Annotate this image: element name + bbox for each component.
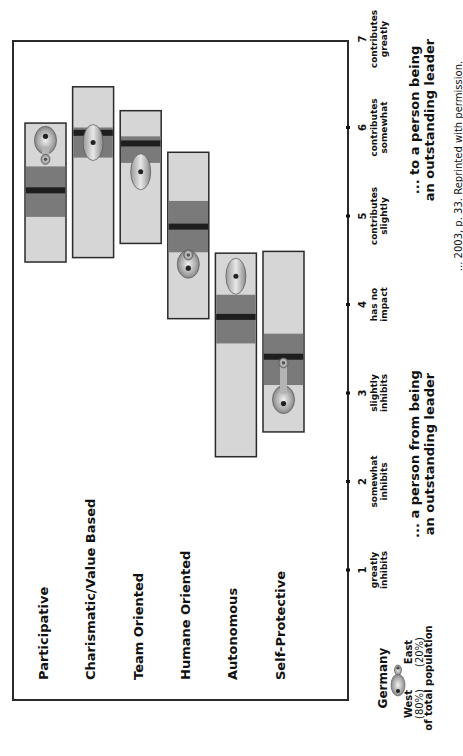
low-caption-line1: ... a person from being <box>407 370 422 538</box>
germany-west-dot <box>281 401 286 406</box>
category-label-participative: Participative <box>36 587 51 680</box>
tick-label-6-line1: contributes <box>369 98 379 156</box>
mean-line-participative <box>26 187 65 193</box>
tick-label-3-line2: inhibits <box>379 374 389 412</box>
low-caption-line2: an outstanding leader <box>422 372 437 535</box>
tick-number-5: 5 <box>357 212 368 219</box>
tick-number-7: 7 <box>357 35 368 42</box>
germany-marker-humane-oriented <box>177 250 199 278</box>
mean-line-humane-oriented <box>169 224 208 230</box>
mean-line-autonomous <box>216 314 255 320</box>
tick-label-7-line2: greatly <box>379 21 389 57</box>
source-note: ... 2003, p. 33. Reprinted with permissi… <box>453 61 463 271</box>
high-caption-line1: ... to a person being <box>407 46 422 194</box>
legend-east-label: East <box>403 640 414 665</box>
germany-west-dot <box>43 134 48 139</box>
tick-label-5-line2: slightly <box>379 197 389 235</box>
tick-number-2: 2 <box>357 478 368 485</box>
germany-west-dot <box>91 140 96 145</box>
axis-tick-labels: 1greatlyinhibits2somewhatinhibits3slight… <box>357 10 389 589</box>
category-labels: ParticipativeCharismatic/Value BasedTeam… <box>36 499 288 680</box>
tick-mark-3 <box>346 392 350 395</box>
tick-label-1-line2: inhibits <box>379 551 389 589</box>
legend-caption: of total population <box>423 625 434 730</box>
chart-svg: ParticipativeCharismatic/Value BasedTeam… <box>0 0 463 756</box>
germany-west-dot <box>186 266 191 271</box>
germany-marker-autonomous <box>226 258 246 294</box>
tick-mark-4 <box>346 303 350 306</box>
tick-mark-5 <box>346 215 350 218</box>
germany-east-dot <box>187 253 191 257</box>
tick-number-6: 6 <box>357 124 368 131</box>
bars-layer <box>25 87 304 457</box>
germany-west-dot <box>233 274 238 279</box>
germany-west-dot <box>138 169 143 174</box>
high-caption-line2: an outstanding leader <box>422 38 437 201</box>
tick-label-6-line2: somewhat <box>379 101 389 154</box>
tick-label-7-line1: contributes <box>369 10 379 68</box>
legend-west-label: West <box>403 690 414 718</box>
tick-label-1-line1: greatly <box>369 552 379 588</box>
tick-mark-6 <box>346 126 350 129</box>
tick-label-4-line2: impact <box>379 286 389 321</box>
tick-label-3-line1: slightly <box>369 374 379 412</box>
tick-number-4: 4 <box>357 301 368 308</box>
legend-title: Germany <box>376 647 390 708</box>
legend: Germany West (80%) East (20%) of total p… <box>376 625 434 730</box>
tick-mark-2 <box>346 480 350 483</box>
chart-figure: ParticipativeCharismatic/Value BasedTeam… <box>0 0 463 756</box>
tick-label-4-line1: has no <box>369 288 379 322</box>
category-label-autonomous: Autonomous <box>225 588 240 680</box>
tick-label-2-line1: somewhat <box>369 455 379 508</box>
tick-label-2-line2: inhibits <box>379 462 389 500</box>
tick-label-5-line1: contributes <box>369 187 379 245</box>
germany-east-dot <box>282 361 286 365</box>
germany-marker-charismatic-value-based <box>83 125 103 161</box>
germany-east-dot <box>44 158 48 162</box>
tick-number-1: 1 <box>357 566 368 573</box>
category-label-self-protective: Self-Protective <box>273 571 288 680</box>
mean-line-team-oriented <box>121 140 160 146</box>
germany-marker-team-oriented <box>131 154 151 190</box>
tick-number-3: 3 <box>357 389 368 396</box>
range-bar-charismatic-value-based <box>73 87 114 258</box>
category-label-humane-oriented: Humane Oriented <box>178 551 193 680</box>
tick-mark-1 <box>346 569 350 572</box>
category-label-team-oriented: Team Oriented <box>131 573 146 680</box>
category-label-charismatic-value-based: Charismatic/Value Based <box>83 499 98 680</box>
